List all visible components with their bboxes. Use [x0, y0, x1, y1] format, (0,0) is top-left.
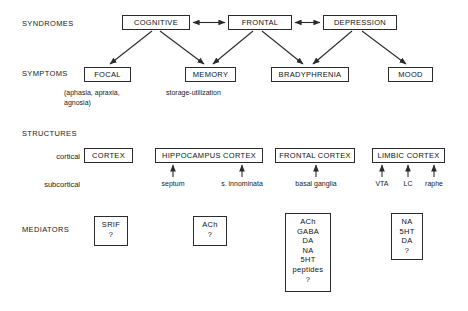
diagram-canvas: SYNDROMES SYMPTOMS STRUCTURES MEDIATORS …: [0, 0, 468, 311]
mediator-box-monoamines[interactable]: NA 5HT DA ?: [391, 213, 423, 260]
mediator-item: DA: [392, 236, 422, 246]
symptom-caption-memory-line1: storage-utilization: [166, 88, 221, 98]
mediator-box-ach[interactable]: ACh ?: [193, 216, 227, 246]
structure-box-hippocampus-cortex[interactable]: HIPPOCAMPUS CORTEX: [155, 148, 263, 163]
structure-box-cortex[interactable]: CORTEX: [84, 148, 133, 163]
subcortical-label-raphe: raphe: [419, 180, 449, 187]
arrow-depression-mood: [362, 31, 406, 64]
syndrome-box-cognitive[interactable]: COGNITIVE: [122, 15, 190, 30]
mediator-item: ACh: [286, 217, 330, 227]
arrow-cognitive-focal: [110, 31, 152, 64]
mediator-item: ?: [95, 230, 127, 240]
symptom-caption-focal-line2: agnosia): [64, 98, 91, 108]
mediator-item: ?: [286, 275, 330, 285]
arrow-depression-bradyphrenia: [313, 31, 352, 64]
structure-box-limbic-cortex[interactable]: LIMBIC CORTEX: [372, 148, 445, 163]
symptom-box-focal[interactable]: FOCAL: [84, 67, 131, 82]
mediator-item: peptides: [286, 265, 330, 275]
arrow-cognitive-memory: [160, 31, 204, 64]
subcortical-label-s-innominata: s. innominata: [210, 180, 274, 187]
syndrome-box-frontal[interactable]: FRONTAL: [228, 15, 292, 30]
row-label-syndromes: SYNDROMES: [22, 19, 74, 28]
mediator-box-basal-ganglia-mediators[interactable]: ACh GABA DA NA 5HT peptides ?: [285, 213, 331, 292]
subcortical-label-vta: VTA: [369, 180, 395, 187]
symptom-box-bradyphrenia[interactable]: BRADYPHRENIA: [271, 67, 349, 82]
mediator-item: GABA: [286, 227, 330, 237]
mediator-item: ?: [194, 230, 226, 240]
row-label-mediators: MEDIATORS: [22, 225, 69, 234]
mediator-box-srif[interactable]: SRIF ?: [94, 216, 128, 246]
symptom-box-memory[interactable]: MEMORY: [185, 67, 236, 82]
syndrome-box-depression[interactable]: DEPRESSION: [323, 15, 397, 30]
mediator-item: 5HT: [392, 227, 422, 237]
subcortical-label-lc: LC: [398, 180, 418, 187]
row-label-symptoms: SYMPTOMS: [22, 69, 68, 78]
mediator-item: ?: [392, 246, 422, 256]
structure-box-frontal-cortex[interactable]: FRONTAL CORTEX: [275, 148, 355, 163]
side-label-subcortical: subcortical: [20, 180, 80, 189]
side-label-cortical: cortical: [30, 152, 80, 161]
mediator-item: NA: [392, 217, 422, 227]
arrow-frontal-bradyphrenia: [262, 31, 303, 64]
row-label-structures: STRUCTURES: [22, 129, 77, 138]
mediator-item: SRIF: [95, 220, 127, 230]
mediator-item: NA: [286, 246, 330, 256]
symptom-caption-focal-line1: (aphasia, apraxia,: [64, 88, 120, 98]
mediator-item: ACh: [194, 220, 226, 230]
mediator-item: 5HT: [286, 255, 330, 265]
subcortical-label-basal-ganglia: basal ganglia: [286, 180, 346, 187]
mediator-item: DA: [286, 236, 330, 246]
subcortical-label-septum: septum: [151, 180, 195, 187]
symptom-box-mood[interactable]: MOOD: [388, 67, 433, 82]
arrow-frontal-memory: [213, 31, 253, 64]
